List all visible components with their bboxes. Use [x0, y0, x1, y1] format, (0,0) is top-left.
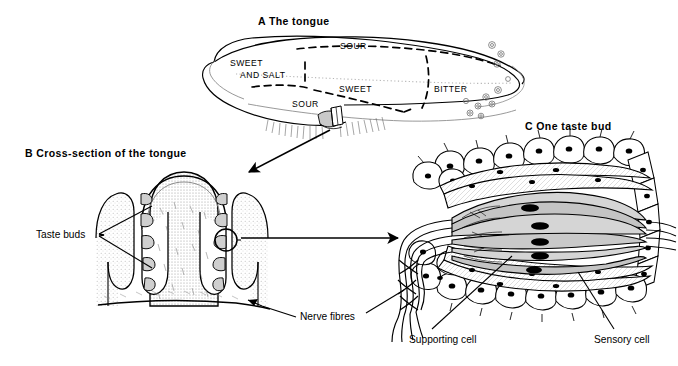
taste-bud-core [452, 192, 646, 274]
callout-sensory-cell: Sensory cell [594, 334, 650, 345]
cross-section-marker [318, 106, 343, 129]
connector-a-to-b [249, 130, 330, 172]
taste-region-sour-upper: SOUR [340, 41, 367, 51]
callout-supporting-cell: Supporting cell [409, 334, 476, 345]
panel-b-title: B Cross-section of the tongue [25, 147, 187, 159]
panel-c-title: C One taste bud [525, 120, 612, 132]
taste-region-sweet: SWEET [339, 84, 372, 94]
callout-nerve-fibres: Nerve fibres [300, 311, 355, 322]
panel-a-title: A The tongue [258, 15, 330, 27]
panel-b-cross-section-artwork [96, 172, 270, 309]
panel-c-taste-bud-artwork [392, 128, 676, 342]
taste-region-sour-lower: SOUR [292, 99, 319, 109]
taste-region-sweet-and-salt-line2: AND SALT [240, 70, 285, 80]
taste-region-sweet-and-salt-line1: SWEET [230, 58, 263, 68]
figure-canvas: A The tongue B Cross-section of the tong… [0, 0, 678, 366]
taste-region-bitter: BITTER [434, 84, 468, 94]
callout-taste-buds: Taste buds [36, 229, 85, 240]
